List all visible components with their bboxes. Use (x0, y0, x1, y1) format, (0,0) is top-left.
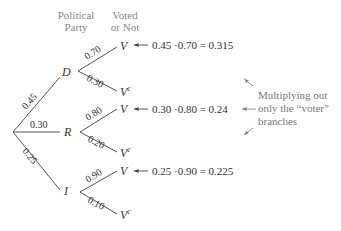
root-edges (13, 77, 60, 190)
branch-d: 0.70 0.30 V Vc (78, 39, 131, 99)
calc-i: 0.25 ·0.90 = 0.225 (152, 165, 234, 177)
prob-d-vc: 0.30 (85, 72, 106, 90)
node-d-v: V (120, 39, 129, 53)
annotation: Multiplying out only the “voter” branche… (242, 79, 329, 135)
branch-r: 0.80 0.20 V Vc (80, 102, 131, 160)
node-r: R (63, 125, 72, 139)
node-d: D (61, 65, 71, 79)
header-vote-line1: Voted (112, 9, 138, 21)
node-r-vc: Vc (120, 145, 131, 160)
prob-d-v: 0.70 (82, 43, 103, 62)
annotation-line1: Multiplying out (258, 89, 327, 101)
prob-r: 0.30 (30, 119, 48, 130)
prob-r-vc: 0.20 (86, 133, 107, 151)
annotation-line2: only the “voter” (258, 102, 329, 114)
node-i: I (63, 184, 69, 198)
header-party-line1: Political (58, 9, 95, 21)
prob-i-vc: 0.10 (86, 194, 107, 212)
header-vote-line2: or Not (111, 21, 139, 33)
calc-d: 0.45 ·0.70 = 0.315 (152, 39, 234, 51)
arrow-up-left-icon (244, 79, 253, 86)
annotation-line3: branches (258, 115, 297, 127)
branch-i: 0.90 0.10 V Vc (80, 164, 131, 222)
prob-d: 0.45 (19, 91, 39, 111)
node-r-v: V (120, 102, 129, 116)
arrow-down-left-icon (244, 128, 253, 135)
node-i-vc: Vc (120, 207, 131, 222)
prob-i: 0.25 (20, 145, 39, 166)
prob-i-v: 0.90 (83, 166, 104, 185)
prob-r-v: 0.80 (83, 104, 104, 123)
header-party-line2: Party (64, 21, 88, 33)
probability-tree-diagram: Political Party Voted or Not 0.45 0.30 0… (0, 0, 341, 231)
calc-r: 0.30 ·0.80 = 0.24 (152, 103, 228, 115)
calculations: 0.45 ·0.70 = 0.315 0.30 ·0.80 = 0.24 0.2… (134, 39, 234, 177)
column-headers: Political Party Voted or Not (58, 9, 140, 33)
node-i-v: V (120, 164, 129, 178)
node-d-vc: Vc (120, 84, 131, 99)
